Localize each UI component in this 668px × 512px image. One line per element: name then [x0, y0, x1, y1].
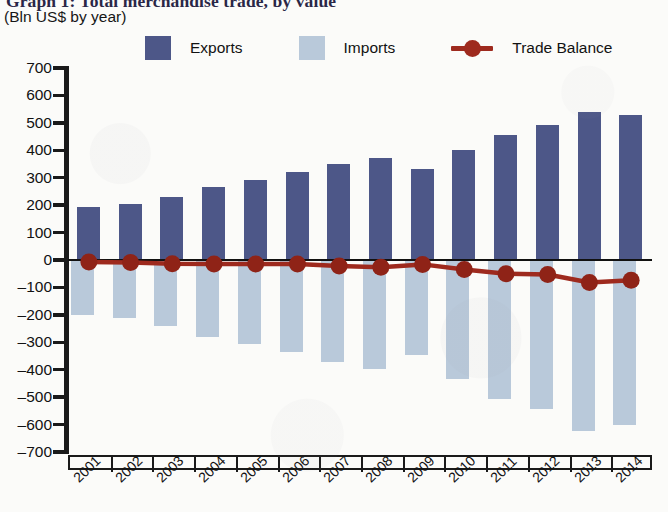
y-axis-tick [53, 368, 69, 372]
trade-balance-marker [289, 256, 306, 273]
y-axis-tick-label: –400 [0, 362, 52, 378]
x-axis-divider [528, 457, 530, 472]
trade-balance-marker [498, 265, 515, 282]
legend-item-trade-balance: Trade Balance [451, 36, 612, 60]
x-axis-divider [319, 457, 321, 472]
y-axis-tick-label: 500 [0, 115, 52, 131]
trade-balance-series [68, 68, 652, 452]
x-axis-divider [570, 457, 572, 472]
exports-swatch-icon [145, 36, 171, 60]
trade-balance-marker [164, 255, 181, 272]
y-axis-tick-label: 200 [0, 197, 52, 213]
trade-balance-marker [414, 256, 431, 273]
y-axis-tick [53, 395, 69, 399]
legend-item-imports: Imports [299, 36, 396, 60]
y-axis-tick-label: –600 [0, 417, 52, 433]
x-axis-divider [403, 457, 405, 472]
legend-label-imports: Imports [344, 39, 396, 57]
y-axis-tick-label: –200 [0, 307, 52, 323]
y-axis-tick [53, 203, 69, 207]
y-axis-tick-label: 0 [0, 252, 52, 268]
trade-balance-marker [247, 256, 264, 273]
trade-balance-marker [331, 258, 348, 275]
legend-label-trade-balance: Trade Balance [512, 39, 612, 57]
legend-label-exports: Exports [190, 39, 243, 57]
trade-balance-marker [539, 266, 556, 283]
y-axis-tick [53, 423, 69, 427]
y-axis-tick [53, 258, 69, 262]
x-axis-divider [236, 457, 238, 472]
x-axis-divider [444, 457, 446, 472]
chart-legend: Exports Imports Trade Balance [145, 36, 613, 60]
legend-item-exports: Exports [145, 36, 243, 60]
y-axis-labels: 7006005004003002001000–100–200–300–400–5… [0, 0, 52, 512]
y-axis-tick-label: –500 [0, 389, 52, 405]
x-axis-divider [111, 457, 113, 472]
imports-swatch-icon [299, 36, 325, 60]
x-axis-divider [361, 457, 363, 472]
trade-balance-marker [623, 272, 640, 289]
y-axis-tick-label: 100 [0, 225, 52, 241]
y-axis-tick [53, 121, 69, 125]
y-axis-tick [53, 94, 69, 98]
y-axis-tick-label: 600 [0, 87, 52, 103]
y-axis-tick [53, 176, 69, 180]
trade-balance-marker [581, 274, 598, 291]
y-axis-tick [53, 66, 69, 70]
trade-balance-line-icon [451, 36, 493, 60]
trade-balance-marker [372, 259, 389, 276]
y-axis-tick-label: –100 [0, 279, 52, 295]
y-axis-tick [53, 231, 69, 235]
y-axis-tick-label: –300 [0, 334, 52, 350]
y-axis-tick [53, 149, 69, 153]
y-axis-tick [53, 286, 69, 290]
x-axis-divider [611, 457, 613, 472]
trade-balance-marker [122, 254, 139, 271]
y-axis-tick-label: 700 [0, 60, 52, 76]
y-axis-tick [53, 313, 69, 317]
trade-balance-marker [206, 256, 223, 273]
x-axis-divider [486, 457, 488, 472]
x-axis-divider [194, 457, 196, 472]
x-axis-divider [152, 457, 154, 472]
y-axis-tick-label: 400 [0, 142, 52, 158]
y-axis-tick-label: 300 [0, 170, 52, 186]
x-axis-frame [68, 455, 652, 470]
y-axis-tick-label: –700 [0, 444, 52, 460]
trade-balance-marker [80, 253, 97, 270]
y-axis-tick [53, 450, 69, 454]
y-axis-tick [53, 341, 69, 345]
x-axis-divider [278, 457, 280, 472]
trade-balance-marker [456, 261, 473, 278]
